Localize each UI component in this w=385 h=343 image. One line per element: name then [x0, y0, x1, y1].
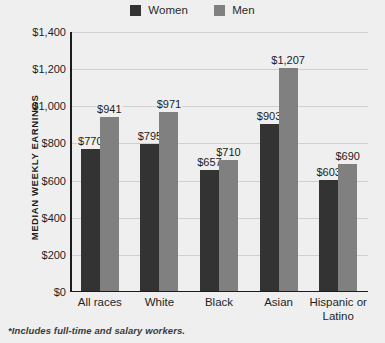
y-axis-tick-label: $1,400	[4, 26, 66, 38]
bar-women[interactable]: $795	[140, 144, 159, 292]
x-axis-line	[70, 291, 368, 293]
chart-legend: WomenMen	[0, 4, 385, 16]
bar-women[interactable]: $770	[81, 149, 100, 292]
bar-women[interactable]: $903	[260, 124, 279, 292]
chart-footnote: *Includes full-time and salary workers.	[8, 325, 185, 336]
y-axis-tick-label: $200	[4, 249, 66, 261]
bar-value-label: $690	[334, 150, 360, 162]
y-axis-tick-label: $400	[4, 212, 66, 224]
y-axis-tick-label: $0	[4, 286, 66, 298]
y-axis-ticks: $0$200$400$600$800$1,000$1,200$1,400	[0, 32, 66, 292]
bar-men[interactable]: $690	[338, 164, 357, 292]
y-axis-line	[70, 32, 72, 292]
bar-men[interactable]: $941	[100, 117, 119, 292]
bar-men[interactable]: $1,207	[279, 68, 298, 292]
bar-value-label: $710	[215, 146, 241, 158]
bar-men[interactable]: $710	[219, 160, 238, 292]
legend-item-women[interactable]: Women	[130, 4, 188, 16]
legend-swatch-men	[214, 5, 225, 16]
y-axis-tick-label: $1,200	[4, 63, 66, 75]
legend-label: Men	[232, 4, 255, 16]
bar-value-label: $941	[96, 103, 122, 115]
bar-women[interactable]: $603	[319, 180, 338, 292]
legend-swatch-women	[130, 5, 141, 16]
plot-area: $770$941$795$971$657$710$903$1,207$603$6…	[70, 32, 368, 292]
x-axis-label: Hispanic or Latino	[300, 296, 376, 323]
y-axis-tick-label: $1,000	[4, 100, 66, 112]
bar-women[interactable]: $657	[200, 170, 219, 292]
bar-group: $603$690	[308, 32, 368, 292]
bar-men[interactable]: $971	[159, 112, 178, 292]
bar-group: $770$941	[70, 32, 130, 292]
bars-layer: $770$941$795$971$657$710$903$1,207$603$6…	[70, 32, 368, 292]
bar-group: $795$971	[130, 32, 190, 292]
legend-label: Women	[148, 4, 188, 16]
legend-item-men[interactable]: Men	[214, 4, 255, 16]
bar-group: $657$710	[189, 32, 249, 292]
earnings-bar-chart: WomenMen MEDIAN WEEKLY EARNINGS $0$200$4…	[0, 0, 385, 343]
y-axis-tick-label: $600	[4, 175, 66, 187]
y-axis-tick-label: $800	[4, 137, 66, 149]
bar-value-label: $1,207	[270, 54, 306, 66]
bar-value-label: $971	[156, 98, 182, 110]
bar-group: $903$1,207	[249, 32, 309, 292]
